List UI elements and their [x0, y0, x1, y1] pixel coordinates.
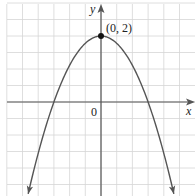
x-axis-label: x [185, 104, 192, 118]
vertex-label: (0, 2) [106, 21, 132, 35]
y-axis-label: y [89, 2, 96, 16]
origin-label: 0 [91, 105, 97, 119]
parabola-graph: (0, 2) y x 0 [0, 0, 195, 196]
vertex-point [98, 33, 104, 39]
